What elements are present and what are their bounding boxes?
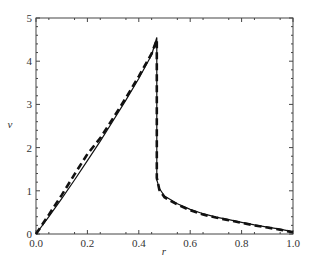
y-tick-label: 3 [27,98,33,110]
series-solid [36,37,293,234]
y-tick-label: 0 [27,228,33,240]
x-tick-label: 1.0 [286,237,300,249]
x-tick-label: 0.8 [235,237,249,249]
y-axis-label: v [8,118,13,130]
axis-tick-labels: 0.00.20.40.60.81.0012345 [27,12,301,249]
x-tick-label: 0.4 [132,237,146,249]
y-tick-label: 2 [27,142,33,154]
x-tick-label: 0.6 [183,237,197,249]
y-tick-label: 4 [27,55,33,67]
line-chart: 0.00.20.40.60.81.0012345 r v [0,0,315,272]
data-series [36,37,293,234]
y-tick-label: 5 [27,12,33,24]
x-axis-label: r [162,245,167,257]
x-tick-label: 0.2 [81,237,95,249]
plot-border [36,18,293,234]
y-tick-label: 1 [27,185,33,197]
plot-frame [36,18,293,234]
series-dashed [36,40,293,234]
axis-ticks [36,18,293,234]
